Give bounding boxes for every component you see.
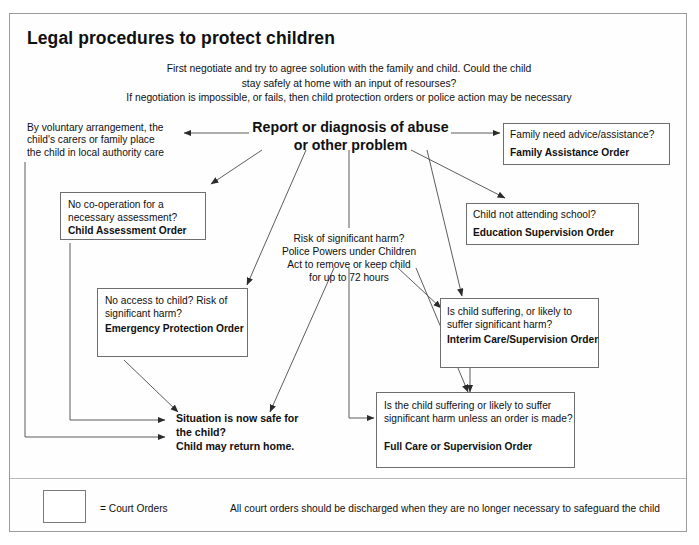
- node-police-powers: Risk of significant harm? Police Powers …: [262, 232, 436, 284]
- node-education-supervision-order-title: Education Supervision Order: [473, 226, 641, 239]
- page-title: Legal procedures to protect children: [27, 28, 335, 49]
- node-voluntary-arrangement: By voluntary arrangement, the child's ca…: [27, 122, 182, 159]
- node-interim-care-body: Is child suffering, or likely to suffer …: [447, 305, 599, 332]
- node-family-assistance-order-body: Family need advice/assistance?: [510, 128, 668, 141]
- node-child-assessment-order-title: Child Assessment Order: [68, 224, 208, 237]
- node-education-supervision-order-body: Child not attending school?: [473, 208, 639, 221]
- node-emergency-protection-order-title: Emergency Protection Order: [105, 322, 247, 335]
- intro-paragraph: First negotiate and try to agree solutio…: [119, 62, 579, 106]
- diagram-page: Legal procedures to protect children Fir…: [0, 0, 699, 545]
- legend-key-label: = Court Orders: [100, 503, 168, 515]
- hub-report-or-diagnosis: Report or diagnosis of abuse or other pr…: [248, 118, 453, 155]
- node-interim-care-title: Interim Care/Supervision Order: [447, 333, 601, 346]
- node-situation-now-safe: Situation is now safe for the child? Chi…: [176, 412, 336, 454]
- legend-court-order-swatch: [43, 490, 86, 523]
- node-full-care-body: Is the child suffering or likely to suff…: [384, 399, 575, 426]
- legend-divider: [10, 478, 686, 479]
- node-emergency-protection-order-body: No access to child? Risk of significant …: [105, 294, 247, 321]
- node-family-assistance-order-title: Family Assistance Order: [510, 146, 668, 159]
- node-full-care-title: Full Care or Supervision Order: [384, 440, 575, 453]
- node-child-assessment-order-body: No co-operation for a necessary assessme…: [68, 198, 204, 225]
- legend-note: All court orders should be discharged wh…: [230, 503, 680, 515]
